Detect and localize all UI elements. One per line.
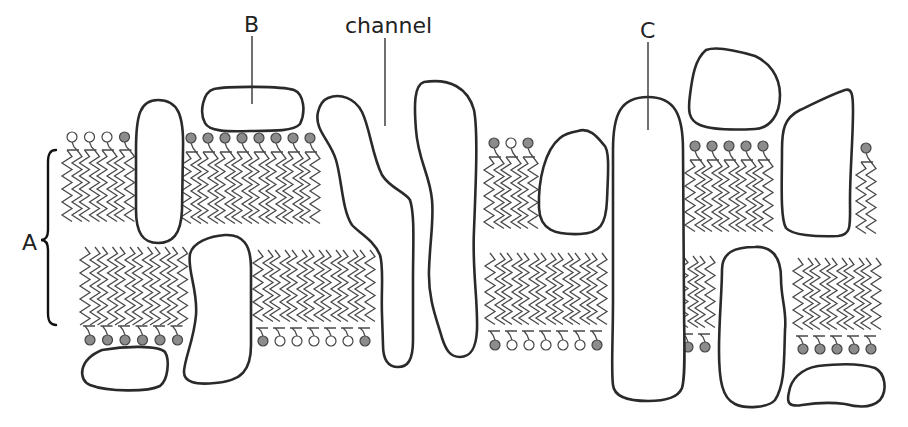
- lipid-head-open-icon: [343, 336, 353, 346]
- phospholipid: [304, 250, 324, 346]
- lipid-head-filled-icon: [173, 335, 183, 345]
- lipid-tail: [719, 160, 729, 232]
- lipid-tail: [232, 152, 242, 224]
- phospholipid: [62, 132, 82, 222]
- lipid-tail: [494, 157, 504, 229]
- phospholipid: [270, 250, 290, 346]
- lipid-tail: [80, 150, 90, 222]
- lipid-tail: [793, 258, 803, 330]
- lipid-tail: [125, 150, 135, 222]
- lipid-tail: [484, 157, 494, 229]
- lipid-tail: [529, 253, 539, 325]
- lipid-tail: [528, 157, 538, 229]
- lipid-head-filled-icon: [832, 344, 842, 354]
- lipid-head-filled-icon: [707, 141, 717, 151]
- lipid-tail: [266, 152, 276, 224]
- lipid-tail: [287, 250, 297, 322]
- lipid-tail: [837, 258, 847, 330]
- lipid-tail: [198, 152, 208, 224]
- lipid-head-open-icon: [326, 336, 336, 346]
- lipid-tail: [712, 160, 722, 232]
- phospholipid: [861, 258, 881, 354]
- lipid-tail: [553, 253, 563, 325]
- phospholipid: [80, 247, 100, 345]
- phospholipid: [355, 250, 375, 346]
- lipid-tail: [253, 250, 263, 322]
- lipid-tail: [511, 157, 521, 229]
- lipid-tail: [746, 160, 756, 232]
- lipid-tail: [820, 258, 830, 330]
- label-C: C: [640, 18, 655, 43]
- label-A: A: [22, 230, 37, 255]
- phospholipid: [502, 253, 522, 350]
- lipid-tail: [866, 162, 876, 234]
- lipid-head-filled-icon: [741, 141, 751, 151]
- protein-integral-left: [136, 100, 183, 243]
- lipid-tail: [570, 253, 580, 325]
- membrane-proteins: [82, 48, 884, 407]
- lipid-tail: [580, 253, 590, 325]
- lipid-tail: [72, 150, 82, 222]
- lipid-tail: [685, 160, 695, 232]
- lipid-tail: [242, 152, 252, 224]
- lipid-tail: [280, 250, 290, 322]
- lipid-head-filled-icon: [288, 133, 298, 143]
- lipid-tail: [844, 258, 854, 330]
- lipid-tail: [62, 150, 72, 222]
- lipid-head-open-icon: [541, 340, 551, 350]
- phospholipid: [810, 258, 830, 354]
- lipid-tail: [810, 258, 820, 330]
- lipid-tail: [304, 250, 314, 322]
- lipid-head-open-icon: [558, 340, 568, 350]
- protein-bottom-right-peripheral: [788, 364, 885, 406]
- lipid-head-filled-icon: [690, 141, 700, 151]
- lipid-tail: [300, 152, 310, 224]
- phospholipid: [115, 247, 135, 345]
- lipid-tail: [502, 253, 512, 325]
- phospholipid: [168, 247, 188, 345]
- lipid-tail: [518, 157, 528, 229]
- protein-right-integral: [782, 90, 853, 237]
- lipid-head-filled-icon: [103, 335, 113, 345]
- phospholipid: [570, 253, 590, 350]
- lipid-tail: [827, 258, 837, 330]
- lipid-head-open-icon: [292, 336, 302, 346]
- lipid-head-filled-icon: [758, 141, 768, 151]
- lipid-tail: [587, 253, 597, 325]
- protein-lower-right-integral: [719, 247, 785, 407]
- lipid-tail: [168, 247, 178, 325]
- lipid-head-filled-icon: [360, 336, 370, 346]
- lipid-tail: [512, 253, 522, 325]
- protein-C-transmembrane: [612, 97, 684, 401]
- lipid-tail: [546, 253, 556, 325]
- lipid-tail: [705, 256, 715, 328]
- phospholipid: [253, 250, 273, 346]
- lipid-tail: [871, 258, 881, 330]
- lipid-head-open-icon: [102, 132, 112, 142]
- lipid-head-filled-icon: [220, 133, 230, 143]
- lipid-head-filled-icon: [254, 133, 264, 143]
- lipid-tail: [310, 152, 320, 224]
- lipid-head-filled-icon: [120, 335, 130, 345]
- lipid-head-filled-icon: [489, 138, 499, 148]
- phospholipid: [133, 247, 153, 345]
- protein-top-right-peripheral: [689, 48, 780, 129]
- lipid-tail: [861, 258, 871, 330]
- lipid-tail: [208, 152, 218, 224]
- lipid-head-filled-icon: [798, 344, 808, 354]
- lipid-head-open-icon: [275, 336, 285, 346]
- lipid-head-filled-icon: [592, 340, 602, 350]
- lipid-tail: [736, 160, 746, 232]
- lipid-tail: [259, 152, 269, 224]
- lipid-tail: [702, 160, 712, 232]
- lipid-head-filled-icon: [120, 132, 130, 142]
- bilayer-brace-icon: [41, 150, 56, 325]
- lipid-tail: [597, 253, 607, 325]
- lipid-head-filled-icon: [724, 141, 734, 151]
- lipid-head-filled-icon: [271, 133, 281, 143]
- lipid-tail: [293, 152, 303, 224]
- lipid-head-filled-icon: [523, 138, 533, 148]
- phospholipid: [856, 143, 876, 234]
- lipid-head-filled-icon: [700, 342, 710, 352]
- lipid-tail: [178, 247, 188, 325]
